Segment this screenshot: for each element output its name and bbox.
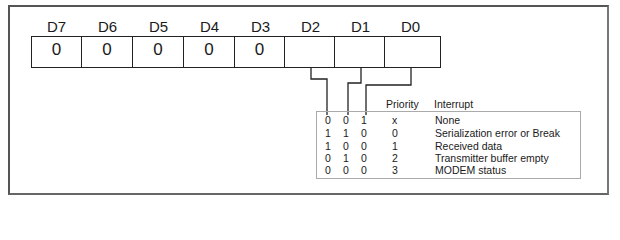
connector-d2 <box>311 68 327 115</box>
header-priority: Priority <box>386 98 419 110</box>
cell-priority: 0 <box>392 127 398 140</box>
table-row: 1 1 0 0 Serialization error or Break <box>317 127 580 140</box>
header-interrupt: Interrupt <box>434 98 473 110</box>
cell-d2: 1 <box>325 127 331 140</box>
cell-d1: 0 <box>343 114 349 127</box>
cell-d0: 0 <box>361 127 367 140</box>
table-row: 0 0 1 x None <box>317 114 580 127</box>
cell-priority: 3 <box>392 164 398 177</box>
cell-d2: 0 <box>325 164 331 177</box>
cell-interrupt: MODEM status <box>435 164 506 177</box>
connector-d1 <box>348 68 361 115</box>
table-row: 0 0 0 3 MODEM status <box>317 164 580 177</box>
cell-d0: 1 <box>361 114 367 127</box>
cell-interrupt: None <box>435 114 460 127</box>
cell-d0: 0 <box>361 164 367 177</box>
cell-d2: 0 <box>325 114 331 127</box>
cell-d1: 0 <box>343 164 349 177</box>
interrupt-table: 0 0 1 x None 1 1 0 0 Serialization error… <box>316 111 581 179</box>
cell-d1: 1 <box>343 127 349 140</box>
cell-interrupt: Serialization error or Break <box>435 127 560 140</box>
cell-priority: x <box>392 114 397 127</box>
